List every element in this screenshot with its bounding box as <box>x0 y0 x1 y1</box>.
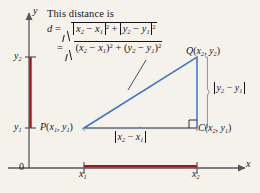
formula-equals-2: = <box>57 42 63 53</box>
brace-vertical <box>205 57 209 128</box>
x-tick-label-x2: x2 <box>192 168 200 180</box>
brace-label-horizontal: x2 − x1 <box>115 131 146 143</box>
formula-line-1: d = x2 − x12 + y2 − y12 <box>47 22 157 35</box>
radicand-1: x2 − x12 + y2 − y12 <box>71 22 156 35</box>
exponent-dy-1: 2 <box>152 23 155 30</box>
figure-canvas: This distance is d = x2 − x12 + y2 − y12… <box>0 0 260 193</box>
point-label-P: P(x1, y1) <box>40 121 73 133</box>
exponent-dx-2: 2 <box>110 42 113 49</box>
abs-dy-1: y2 − y1 <box>120 23 152 35</box>
exponent-dy-2: 2 <box>158 42 161 49</box>
leader-line <box>128 60 146 90</box>
right-angle-marker <box>189 120 197 128</box>
formula-equals-1: = <box>55 23 61 34</box>
y-tick-label-y1: y1 <box>14 121 22 133</box>
paren-dx-2: (x2 − x1) <box>76 42 110 54</box>
formula-line-2: = (x2 − x1)2 + (y2 − y1)2 <box>57 41 162 54</box>
y-tick-label-y2: y2 <box>14 50 22 62</box>
point-label-C: C(x2, y1) <box>198 122 231 134</box>
x-axis-label: x <box>246 158 250 169</box>
origin-label: 0 <box>19 161 24 172</box>
x-tick-label-x1: x1 <box>79 168 87 180</box>
paren-dy-2: (y2 − y1) <box>124 42 158 54</box>
formula-lhs: d <box>47 23 52 34</box>
brace-label-vertical: y2 − y1 <box>214 82 245 94</box>
abs-dx-1: x2 − x1 <box>73 23 105 35</box>
headline-text: This distance is <box>47 8 114 19</box>
exponent-dx-1: 2 <box>106 23 109 30</box>
point-label-Q: Q(x2, y2) <box>186 45 220 57</box>
y-axis-label: y <box>33 5 37 16</box>
triangle-PQC <box>84 57 197 128</box>
radicand-2: (x2 − x1)2 + (y2 − y1)2 <box>74 41 163 54</box>
